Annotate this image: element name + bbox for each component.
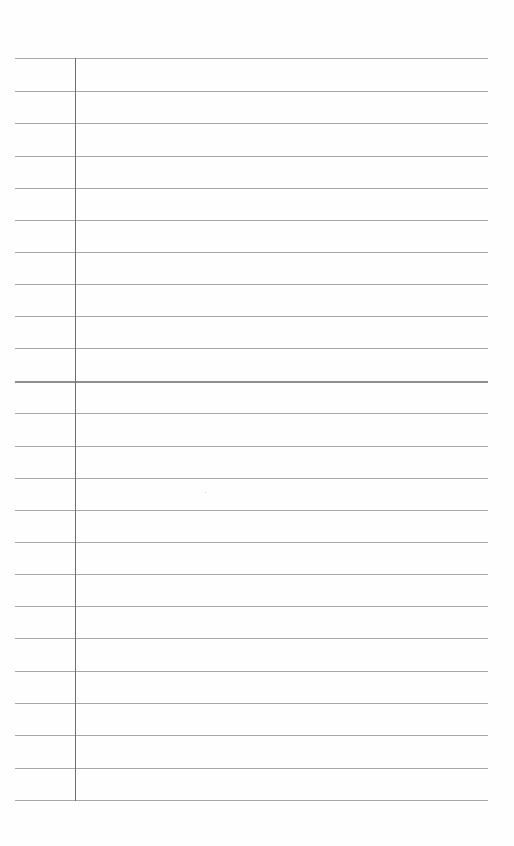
ruled-line	[15, 735, 488, 736]
ruled-line	[15, 446, 488, 447]
ruled-line	[15, 156, 488, 157]
ruled-line	[15, 574, 488, 575]
ruled-line	[15, 284, 488, 285]
ruled-line	[15, 91, 488, 92]
margin-line	[75, 58, 76, 801]
ruled-line	[15, 542, 488, 543]
ruled-line	[15, 478, 488, 479]
ruled-line	[15, 58, 488, 59]
ruled-line	[15, 188, 488, 189]
notepaper-page	[0, 0, 514, 846]
ruled-line	[15, 606, 488, 607]
ruled-line	[15, 381, 488, 383]
ruled-line	[15, 220, 488, 221]
ruled-line	[15, 123, 488, 124]
ruled-line	[15, 413, 488, 414]
ruled-line	[15, 316, 488, 317]
paper-speck	[205, 492, 206, 493]
ruled-line	[15, 638, 488, 639]
ruled-line	[15, 768, 488, 769]
ruled-line	[15, 252, 488, 253]
ruled-line	[15, 348, 488, 349]
ruled-line	[15, 800, 488, 801]
ruled-line	[15, 510, 488, 511]
ruled-line	[15, 703, 488, 704]
ruled-line	[15, 671, 488, 672]
